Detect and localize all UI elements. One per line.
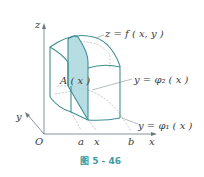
x-axis-label: x (149, 136, 155, 147)
upper-curve-label: y = φ₂ ( x ) (133, 74, 188, 85)
tick-b-label: b (128, 136, 134, 147)
cross-section-label: A ( x ) (59, 75, 90, 86)
tick-a-label: a (78, 136, 84, 147)
surface-label: z = f ( x, y ) (104, 28, 164, 39)
leader-lines (92, 35, 138, 124)
solid-volume-diagram: z y O x a x b z = f ( x, y ) y = φ₂ ( x … (0, 0, 204, 177)
y-axis-label: y (15, 111, 22, 122)
z-axis-label: z (34, 19, 41, 30)
tick-x-label: x (94, 136, 100, 147)
z-arrow-icon (42, 23, 46, 29)
lower-curve-label: y = φ₁ ( x ) (137, 120, 192, 131)
y-axis (27, 114, 44, 134)
figure-caption: 图 5 - 46 (80, 156, 121, 166)
origin-label: O (35, 136, 43, 147)
